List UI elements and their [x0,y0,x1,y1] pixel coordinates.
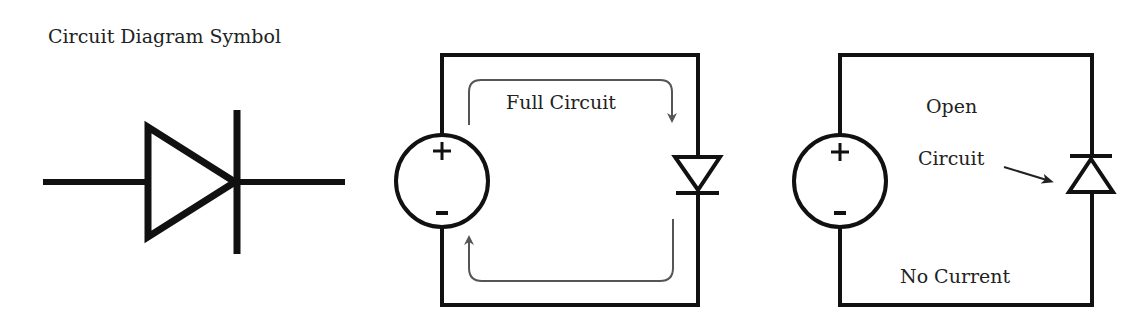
voltage-source-icon [396,135,488,227]
open-label-line2: Circuit [918,147,985,169]
pointer-arrow-icon [1004,167,1050,181]
diode-diagram: Circuit Diagram Symbol Full Circ [0,0,1147,326]
panel-symbol: Circuit Diagram Symbol [43,25,345,254]
panel-full-circuit: Full Circuit [396,55,720,305]
full-circuit-label: Full Circuit [506,91,616,113]
reverse-diode-icon [1069,156,1113,192]
no-current-label: No Current [900,265,1011,287]
panel-open-circuit: Open Circuit No Current [794,55,1113,305]
forward-diode-icon [675,157,720,193]
voltage-source-icon [794,135,886,227]
open-label-line1: Open [926,95,977,117]
diode-symbol-icon [43,110,345,254]
symbol-title: Circuit Diagram Symbol [48,25,281,47]
current-arrow-bottom-icon [469,219,673,281]
